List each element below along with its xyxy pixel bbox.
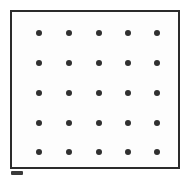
figure-canvas: Square Dot Grid [0, 0, 189, 180]
grid-border-box [10, 10, 180, 169]
scan-smudge-mark [11, 171, 23, 175]
figure-title: Square Dot Grid [0, 0, 1, 1]
